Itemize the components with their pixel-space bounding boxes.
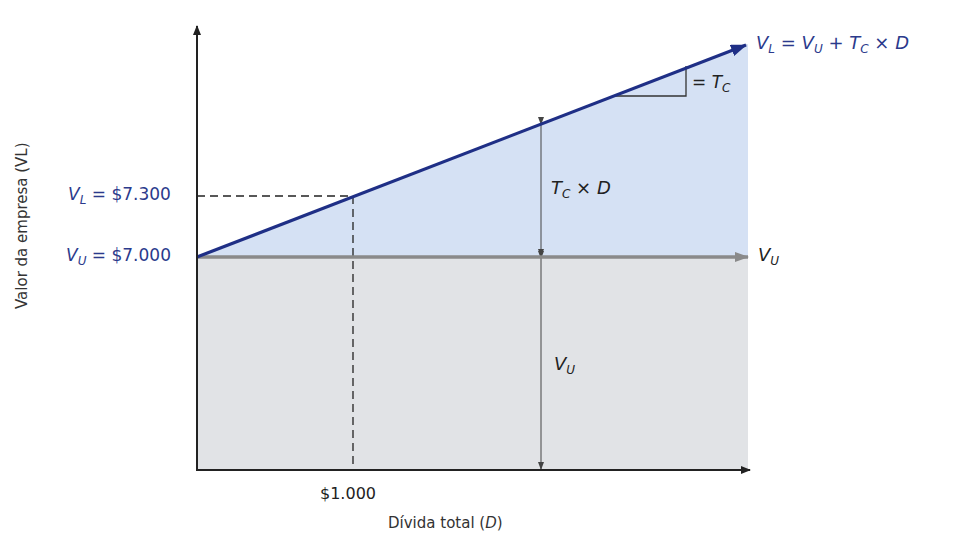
tc-d-label: TC × D: [551, 177, 611, 201]
vu-region: [197, 257, 748, 470]
y-tick-vu: VU = $7.000: [66, 245, 171, 268]
x-axis-title: Dívida total (D): [388, 514, 503, 532]
y-tick-vl: VL = $7.300: [68, 184, 171, 207]
slope-label: = TC: [692, 72, 730, 95]
x-tick-1000: $1.000: [320, 484, 376, 503]
vu-region-label: VU: [554, 353, 575, 377]
chart-canvas: [0, 0, 956, 554]
vl-equation-label: VL = VU + TC × D: [756, 32, 909, 56]
y-axis-title: Valor da empresa (VL): [13, 149, 31, 309]
vu-line-label: VU: [758, 244, 779, 268]
